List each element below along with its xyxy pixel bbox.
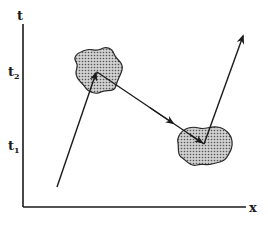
- incoming-worldline-arrow: [57, 73, 96, 187]
- tick-label-t2-sub: 2: [14, 71, 20, 81]
- tick-label-t2: t2: [8, 64, 20, 81]
- region-at-t1: [178, 127, 233, 166]
- t-axis-label: t: [17, 8, 23, 23]
- x-axis-label: x: [249, 200, 257, 215]
- tick-label-t1-sub: 1: [14, 145, 20, 155]
- tick-label-t1: t1: [8, 138, 20, 155]
- spacetime-diagram: t x t2 t1: [0, 0, 268, 226]
- outgoing-worldline-arrow: [204, 36, 243, 144]
- region-at-t2: [75, 48, 122, 94]
- connecting-vector-arrowhead: [150, 108, 173, 124]
